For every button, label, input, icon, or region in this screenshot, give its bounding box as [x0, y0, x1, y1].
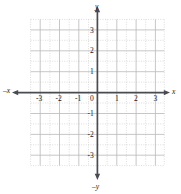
y-axis-positive-label: y	[95, 3, 98, 11]
y-tick-label-pos-3: 3	[90, 27, 94, 35]
y-tick-label-neg-1: -1	[88, 110, 94, 118]
x-axis-positive-label: x	[172, 88, 175, 96]
y-tick-label-pos-2: 2	[90, 47, 94, 55]
y-tick-label-neg-2: -2	[88, 131, 94, 139]
y-axis-negative-arrowhead	[95, 174, 100, 180]
x-tick-label-pos-1: 1	[115, 95, 119, 103]
origin-label: 0	[90, 95, 94, 103]
x-tick-label-pos-2: 2	[134, 95, 138, 103]
x-axis-negative-label: –x	[3, 87, 10, 95]
y-tick-label-neg-3: -3	[88, 152, 94, 160]
x-axis-negative-arrowhead	[12, 90, 18, 95]
y-axis-negative-label: –y	[92, 183, 99, 191]
x-tick-label-pos-3: 3	[154, 95, 158, 103]
x-tick-label-neg-3: -3	[36, 95, 42, 103]
y-tick-label-pos-1: 1	[90, 68, 94, 76]
x-axis-positive-arrowhead	[164, 90, 170, 95]
x-tick-label-neg-1: -1	[75, 95, 81, 103]
x-tick-label-neg-2: -2	[56, 95, 62, 103]
coordinate-plane-figure: –x x y –y 0 -3 -2 -1 1 2 3 3 2 1 -1 -2 -…	[0, 0, 181, 194]
